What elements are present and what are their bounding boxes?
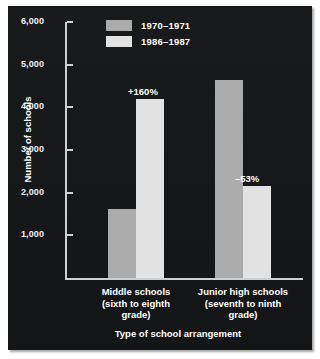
chart-panel: 1,0002,0003,0004,0005,0006,000 Number of… (8, 6, 312, 350)
y-axis-tick-label: 1,000 (0, 229, 44, 239)
legend-item: 1986–1987 (106, 36, 190, 47)
legend-swatch-series-2 (106, 36, 132, 47)
category-label-line: (sixth to eighth (78, 298, 194, 310)
x-axis-line (65, 278, 303, 280)
category-label-line: grade) (78, 309, 194, 321)
chart-page: 1,0002,0003,0004,0005,0006,000 Number of… (0, 0, 320, 359)
y-axis-tick (67, 106, 73, 108)
bar-value-annotation: –53% (235, 173, 259, 184)
bar (136, 99, 164, 278)
x-axis-category-label: Middle schools(sixth to eighthgrade) (78, 286, 194, 321)
legend-item: 1970–1971 (106, 20, 190, 31)
x-axis-category-label: Junior high schools(seventh to ninthgrad… (185, 286, 301, 321)
y-axis-tick (67, 192, 73, 194)
y-axis-tick-label: 5,000 (0, 59, 44, 69)
y-axis-tick (67, 21, 73, 23)
y-axis-tick (67, 64, 73, 66)
y-axis-line (65, 22, 67, 280)
legend-label-series-2: 1986–1987 (141, 36, 190, 47)
y-axis-tick (67, 149, 73, 151)
y-axis-tick-label: 6,000 (0, 16, 44, 26)
y-axis-tick (67, 234, 73, 236)
category-label-line: (seventh to ninth (185, 298, 301, 310)
y-axis-title: Number of schools (22, 75, 33, 205)
category-label-line: Junior high schools (185, 286, 301, 298)
bar (108, 209, 136, 278)
bar-value-annotation: +160% (128, 86, 158, 97)
plot-area: 1,0002,0003,0004,0005,0006,000 Number of… (8, 6, 312, 350)
legend-swatch-series-1 (106, 20, 132, 31)
legend-label-series-1: 1970–1971 (141, 20, 190, 31)
bar (243, 186, 271, 278)
category-label-line: grade) (185, 309, 301, 321)
x-axis-title: Type of school arrangement (58, 328, 298, 339)
chart-legend: 1970–1971 1986–1987 (106, 20, 190, 52)
category-label-line: Middle schools (78, 286, 194, 298)
